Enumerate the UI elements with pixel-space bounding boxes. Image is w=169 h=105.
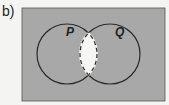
venn-diagram: P Q <box>0 0 169 105</box>
set-label-p: P <box>66 25 75 39</box>
set-label-q: Q <box>115 25 125 39</box>
